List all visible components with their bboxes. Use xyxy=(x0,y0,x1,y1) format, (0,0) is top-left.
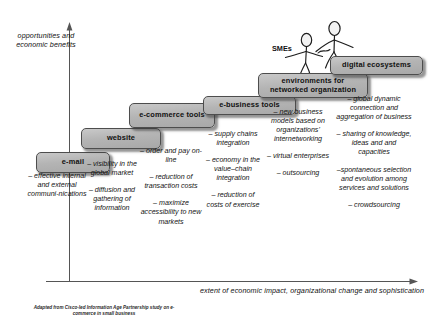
benefit-item: – economy in the value–chain integration xyxy=(203,156,263,183)
benefits-list-networked-organization: – new business models based on organizat… xyxy=(267,108,329,179)
diagram-canvas: opportunities and economic benefits exte… xyxy=(0,0,428,331)
benefit-item: – visibility in the global market xyxy=(83,160,141,178)
smes-label: SMEs xyxy=(272,44,292,53)
benefit-item: – reduction of transaction costs xyxy=(140,173,202,191)
benefit-item: – supply chains integration xyxy=(203,130,263,148)
benefits-list-ecommerce-tools: – order and pay on-line – reduction of t… xyxy=(140,147,202,227)
benefit-item: – outsourcing xyxy=(267,169,329,178)
x-axis-label: extent of economic impact, organizationa… xyxy=(196,286,428,295)
benefit-item: – virtual enterprises xyxy=(267,152,329,161)
benefit-item: – maximize accessibility to new markets xyxy=(140,199,202,226)
benefits-list-email: – effective internal and external commun… xyxy=(26,172,88,199)
benefit-item: – crowdsourcing xyxy=(336,201,412,210)
benefit-item: – sharing of knowledge, ideas and and ca… xyxy=(336,130,412,157)
network-link xyxy=(318,50,330,54)
benefit-item: – new business models based on organizat… xyxy=(267,108,329,144)
benefit-item: – global dynamic connection and aggregat… xyxy=(336,95,412,122)
benefit-item: – reduction of costs of exercise xyxy=(203,191,263,209)
benefits-list-website: – visibility in the global market – diff… xyxy=(83,160,141,213)
y-axis-label: opportunities and economic benefits xyxy=(14,31,78,49)
benefits-list-e-business-tools: – supply chains integration – economy in… xyxy=(203,130,263,210)
benefit-item: – order and pay on-line xyxy=(140,147,202,165)
benefits-list-digital-ecosystems: – global dynamic connection and aggregat… xyxy=(336,95,412,210)
benefit-item: –spontaneous selection and evolution amo… xyxy=(336,166,412,193)
benefit-item: – diffusion and gathering of information xyxy=(83,186,141,213)
stage-box-digital-ecosystems[interactable]: digital ecosystems xyxy=(330,56,423,75)
stage-box-website[interactable]: website xyxy=(81,128,161,149)
source-attribution: Adapted from Cisco-led Information Age P… xyxy=(24,305,184,317)
benefit-item: – effective internal and external commun… xyxy=(26,172,88,199)
